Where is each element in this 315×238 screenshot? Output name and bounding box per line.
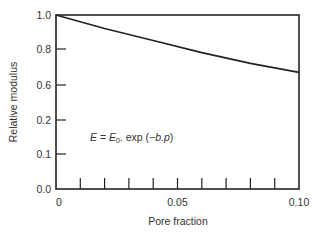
y-tick-label: 0.1 [36,148,51,160]
y-tick-label: 0.0 [36,183,51,195]
x-tick-label: 0 [56,196,62,208]
y-tick-label: 0.2 [36,114,51,126]
x-tick-label: 0.10 [289,196,310,208]
y-tick-label: 0.8 [36,43,51,55]
y-tick-label: 0.6 [36,79,51,91]
x-tick-label: 0.05 [167,196,188,208]
equation-annotation: E = E0. exp (−b.p) [90,131,173,144]
chart: 1.00.80.60.20.10.0 00.050.10 E = E0. exp… [0,0,315,238]
plot-frame [56,15,299,189]
data-line [56,15,299,72]
y-axis-ticks: 1.00.80.60.20.10.0 [36,9,66,195]
y-tick-label: 1.0 [36,9,51,21]
x-axis-ticks: 00.050.10 [56,178,309,208]
x-axis-label: Pore fraction [148,215,208,227]
y-axis-label: Relative modulus [7,62,19,143]
